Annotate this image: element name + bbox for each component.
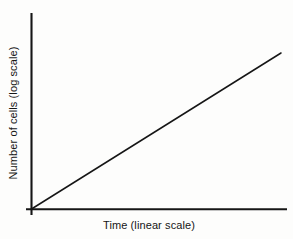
growth-line	[32, 53, 282, 209]
x-axis-label: Time (linear scale)	[31, 220, 267, 231]
y-axis-label-container: Number of cells (log scale)	[0, 0, 26, 239]
figure-panel: Number of cells (log scale) Time (linear…	[0, 0, 293, 239]
y-axis-label: Number of cells (log scale)	[8, 47, 19, 180]
plot-area	[0, 0, 293, 239]
